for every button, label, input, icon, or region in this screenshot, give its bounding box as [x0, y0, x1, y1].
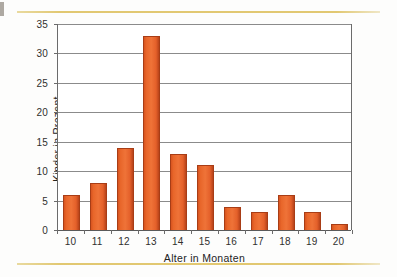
x-tick-mark: [84, 230, 85, 234]
x-tick-label: 17: [243, 236, 273, 247]
bar-17: [251, 212, 268, 230]
x-tick-mark: [57, 230, 58, 234]
x-tick-label: 10: [55, 236, 85, 247]
y-tick-mark: [54, 24, 58, 25]
bar-15: [197, 165, 214, 230]
y-tick-mark: [54, 53, 58, 54]
y-tick-label: 25: [14, 77, 48, 88]
y-tick-mark: [54, 201, 58, 202]
x-tick-label: 14: [163, 236, 193, 247]
x-tick-label: 16: [216, 236, 246, 247]
x-tick-mark: [191, 230, 192, 234]
y-tick-label: 5: [14, 195, 48, 206]
gridline: [58, 24, 351, 25]
x-tick-mark: [298, 230, 299, 234]
y-tick-label: 10: [14, 166, 48, 177]
x-tick-mark: [352, 230, 353, 234]
y-tick-mark: [54, 142, 58, 143]
gridline: [58, 230, 351, 231]
bar-16: [224, 207, 241, 231]
bar-14: [170, 154, 187, 231]
x-tick-label: 19: [297, 236, 327, 247]
x-tick-mark: [245, 230, 246, 234]
decorative-rule-top: [17, 11, 380, 13]
y-tick-label: 35: [14, 19, 48, 30]
x-tick-mark: [164, 230, 165, 234]
gridline: [58, 142, 351, 143]
x-tick-label: 20: [324, 236, 354, 247]
gridline: [58, 112, 351, 113]
x-tick-label: 11: [82, 236, 112, 247]
gridline: [58, 53, 351, 54]
x-tick-mark: [111, 230, 112, 234]
y-tick-label: 0: [14, 225, 48, 236]
bar-13: [143, 36, 160, 230]
page-edge-mark: [0, 2, 4, 16]
bar-20: [331, 224, 348, 230]
y-tick-mark: [54, 171, 58, 172]
figure: Kinder in Prozent 05101520253035 1011121…: [0, 0, 397, 277]
x-axis-label: Alter in Monaten: [57, 252, 352, 264]
x-tick-mark: [325, 230, 326, 234]
plot-area: [57, 24, 352, 230]
y-tick-label: 15: [14, 136, 48, 147]
x-tick-label: 13: [136, 236, 166, 247]
y-tick-label: 30: [14, 48, 48, 59]
bar-10: [63, 195, 80, 230]
bar-18: [278, 195, 295, 230]
bar-12: [117, 148, 134, 230]
x-tick-mark: [272, 230, 273, 234]
bar-19: [304, 212, 321, 230]
y-tick-label: 20: [14, 107, 48, 118]
y-tick-mark: [54, 83, 58, 84]
x-tick-mark: [218, 230, 219, 234]
x-tick-mark: [138, 230, 139, 234]
y-tick-mark: [54, 112, 58, 113]
bar-11: [90, 183, 107, 230]
x-tick-label: 15: [190, 236, 220, 247]
x-tick-label: 18: [270, 236, 300, 247]
x-tick-label: 12: [109, 236, 139, 247]
gridline: [58, 83, 351, 84]
